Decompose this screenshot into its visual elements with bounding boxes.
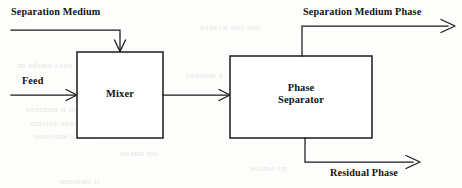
- unit-label-phase-separator-line2: Separator: [230, 94, 372, 106]
- separation-medium-phase-line: [302, 26, 448, 56]
- stream-separation-medium-phase: [302, 20, 455, 57]
- separation-medium-line: [11, 30, 120, 50]
- stream-label-residual-phase: Residual Phase: [330, 167, 398, 178]
- stream-mixer-to-separator: [163, 90, 230, 101]
- stream-residual-phase: [305, 138, 420, 169]
- process-flow-diagram: m sdeno tvaa aaaecn ooi atn seotmm n ose…: [0, 0, 462, 188]
- unit-label-mixer: Mixer: [77, 88, 163, 100]
- stream-feed: [11, 90, 77, 101]
- unit-label-phase-separator-line1: Phase: [230, 82, 372, 94]
- stream-label-feed: Feed: [22, 75, 44, 86]
- stream-label-separation-medium: Separation Medium: [11, 6, 100, 17]
- stream-label-separation-medium-phase: Separation Medium Phase: [303, 6, 421, 17]
- residual-phase-line: [305, 138, 413, 162]
- stream-separation-medium: [11, 30, 126, 52]
- unit-label-phase-separator: Phase Separator: [230, 82, 372, 106]
